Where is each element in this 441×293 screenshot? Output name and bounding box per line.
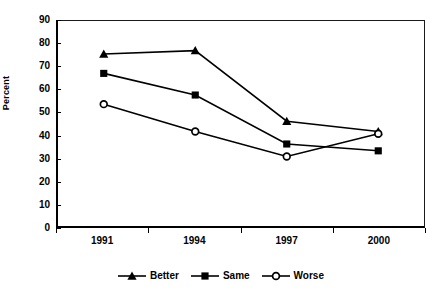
- square-marker: [190, 270, 220, 282]
- x-tick-mark: [425, 228, 426, 233]
- plot-area: [56, 20, 425, 228]
- y-tick-label: 30: [24, 154, 50, 164]
- y-tick-label: 0: [24, 223, 50, 233]
- x-tick-mark: [148, 228, 149, 233]
- data-point-marker: [192, 91, 199, 98]
- legend-label: Better: [150, 270, 179, 282]
- series-line: [104, 104, 379, 156]
- y-tick-mark: [56, 182, 61, 183]
- y-tick-mark: [56, 89, 61, 90]
- series-worse: [100, 101, 381, 160]
- y-tick-mark: [56, 205, 61, 206]
- series-better: [99, 46, 383, 135]
- chart-legend: BetterSameWorse: [0, 266, 441, 286]
- y-tick-mark: [56, 112, 61, 113]
- y-tick-label: 60: [24, 84, 50, 94]
- x-tick-label: 2000: [333, 232, 425, 252]
- y-tick-mark: [56, 66, 61, 67]
- y-tick-label: 90: [24, 15, 50, 25]
- data-point-marker: [100, 101, 107, 108]
- x-tick-mark: [56, 228, 57, 233]
- y-tick-label: 50: [24, 107, 50, 117]
- line-chart: Percent 9080706050403020100 199119941997…: [0, 0, 441, 293]
- legend-item-same[interactable]: Same: [190, 270, 250, 282]
- y-tick-label: 10: [24, 200, 50, 210]
- y-tick-label: 40: [24, 131, 50, 141]
- x-axis-tick-labels: 1991199419972000: [56, 232, 425, 252]
- open-circle-marker: [261, 270, 291, 282]
- y-tick-label: 70: [24, 61, 50, 71]
- triangle-marker: [117, 270, 147, 282]
- data-point-marker: [192, 128, 199, 135]
- y-tick-mark: [56, 136, 61, 137]
- data-point-marker: [283, 140, 290, 147]
- legend-label: Worse: [294, 270, 324, 282]
- y-tick-label: 80: [24, 38, 50, 48]
- data-point-marker: [375, 147, 382, 154]
- x-tick-label: 1994: [148, 232, 240, 252]
- plot-series-svg: [58, 21, 424, 226]
- legend-label: Same: [223, 270, 250, 282]
- data-point-marker: [375, 130, 382, 137]
- y-tick-mark: [56, 159, 61, 160]
- series-same: [100, 70, 382, 155]
- legend-item-worse[interactable]: Worse: [261, 270, 324, 282]
- x-tick-mark: [241, 228, 242, 233]
- x-tick-label: 1997: [241, 232, 333, 252]
- data-point-marker: [283, 153, 290, 160]
- y-axis-tick-labels: 9080706050403020100: [22, 0, 50, 248]
- legend-item-better[interactable]: Better: [117, 270, 179, 282]
- y-tick-mark: [56, 43, 61, 44]
- y-tick-mark: [56, 20, 61, 21]
- data-point-marker: [100, 70, 107, 77]
- x-tick-mark: [333, 228, 334, 233]
- y-axis-title: Percent: [1, 53, 11, 133]
- y-tick-label: 20: [24, 177, 50, 187]
- x-tick-label: 1991: [56, 232, 148, 252]
